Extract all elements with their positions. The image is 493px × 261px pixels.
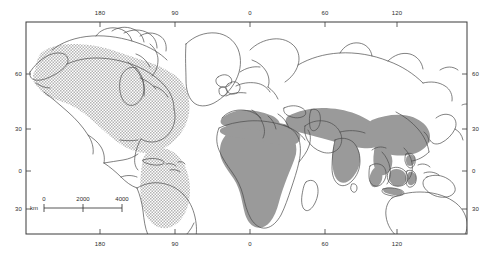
tick-label-bottom-0: 180 (95, 241, 106, 247)
tick-label-left-1: 30 (8, 126, 22, 132)
tick-label-top-1: 90 (171, 10, 178, 16)
world-distribution-map-figure: 180 90 0 60 120 180 90 0 60 120 60 30 0 … (0, 0, 493, 261)
tick-label-top-3: 60 (321, 10, 328, 16)
scale-bar-unit-label: km (30, 205, 38, 211)
tick-label-top-2: 0 (248, 10, 252, 16)
tick-label-right-0: 60 (472, 71, 479, 77)
tick-label-bottom-1: 90 (171, 241, 178, 247)
tick-label-bottom-3: 60 (321, 241, 328, 247)
tick-label-left-0: 60 (8, 71, 22, 77)
scale-bar: km 0 2000 4000 (44, 196, 122, 214)
tick-label-right-2: 0 (472, 168, 476, 174)
scale-bar-tick-2: 4000 (115, 196, 128, 202)
tick-label-left-2: 0 (8, 168, 22, 174)
scale-bar-tick-0: 0 (42, 196, 45, 202)
tick-label-left-3: 30 (8, 206, 22, 212)
tick-label-right-1: 30 (472, 126, 479, 132)
map-canvas (0, 0, 493, 261)
range-borneo (389, 169, 406, 186)
tick-label-bottom-2: 0 (248, 241, 252, 247)
scale-bar-tick-1: 2000 (76, 196, 89, 202)
range-java (383, 188, 403, 195)
tick-label-top-4: 120 (392, 10, 403, 16)
tick-label-right-3: 30 (472, 206, 479, 212)
tick-label-top-0: 180 (95, 10, 106, 16)
range-south-america (140, 148, 190, 228)
tick-label-bottom-4: 120 (392, 241, 403, 247)
